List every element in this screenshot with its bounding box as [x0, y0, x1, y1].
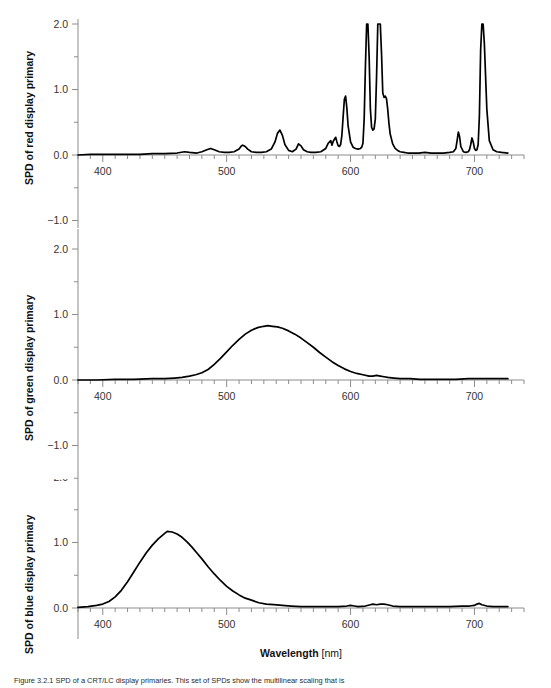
y-axis-label-green: SPD of green display primary: [23, 294, 35, 441]
green-spd-curve: [78, 326, 508, 380]
y-tick-label: 1.0: [53, 83, 68, 95]
red-chart-svg: SPD of red display primary 2.01.00.0−1.0…: [0, 0, 551, 230]
x-tick-label: 400: [94, 165, 112, 177]
x-tick-label: 700: [466, 618, 484, 630]
y-tick-label: 0.0: [53, 374, 68, 386]
y-tick-label: −1.0: [47, 214, 68, 226]
x-tick-label: 500: [218, 618, 236, 630]
x-axis-title: Wavelength [nm]: [260, 647, 342, 659]
x-tick-label: 700: [466, 390, 484, 402]
green-chart-svg: SPD of green display primary 2.01.00.0−1…: [0, 229, 551, 479]
y-tick-label: 1.0: [53, 536, 68, 548]
x-axis-title-bold: Wavelength: [260, 647, 319, 659]
green-y-ticks: 2.01.00.0−1.0: [47, 243, 78, 479]
y-axis-label-blue: SPD of blue display primary: [23, 514, 35, 654]
red-y-ticks: 2.01.00.0−1.0: [47, 18, 78, 227]
x-tick-label: 600: [342, 165, 360, 177]
y-tick-label: 2.0: [53, 18, 68, 30]
panel-blue-primary: SPD of blue display primary 2.01.00.0 40…: [0, 479, 551, 664]
red-axes: [78, 19, 524, 228]
panel-red-primary: SPD of red display primary 2.01.00.0−1.0…: [0, 0, 551, 230]
red-spd-curve: [78, 24, 508, 155]
blue-chart-svg: SPD of blue display primary 2.01.00.0 40…: [0, 479, 551, 664]
y-tick-label: 0.0: [53, 149, 68, 161]
y-axis-label-red: SPD of red display primary: [23, 51, 35, 185]
y-tick-label: −1.0: [47, 439, 68, 451]
x-tick-label: 600: [342, 390, 360, 402]
figure-caption: Figure 3.2.1 SPD of a CRT/LC display pri…: [14, 676, 544, 687]
blue-spd-curve: [78, 531, 508, 607]
x-tick-label: 500: [218, 390, 236, 402]
red-x-ticks: 400500600700: [78, 155, 524, 177]
x-tick-label: 400: [94, 618, 112, 630]
x-tick-label: 700: [466, 165, 484, 177]
x-axis-title-unit: [nm]: [322, 647, 343, 659]
x-tick-label: 400: [94, 390, 112, 402]
y-tick-label: 2.0: [53, 243, 68, 255]
y-tick-label: 0.0: [53, 602, 68, 614]
spd-figure: SPD of red display primary 2.01.00.0−1.0…: [0, 0, 551, 688]
green-axes: [78, 229, 524, 479]
blue-axes: [78, 479, 524, 639]
green-x-ticks: 400500600700: [78, 380, 524, 402]
blue-x-ticks: 400500600700: [78, 608, 524, 630]
y-tick-label: 1.0: [53, 308, 68, 320]
blue-y-ticks: 2.01.00.0: [53, 479, 78, 614]
panel-green-primary: SPD of green display primary 2.01.00.0−1…: [0, 229, 551, 479]
y-tick-label: 2.0: [53, 479, 68, 483]
x-tick-label: 600: [342, 618, 360, 630]
x-tick-label: 500: [218, 165, 236, 177]
